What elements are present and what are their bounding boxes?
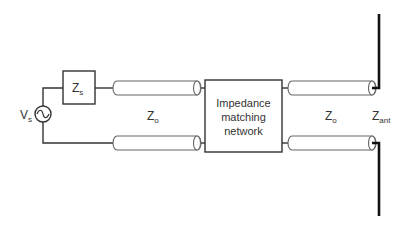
wire-source-bottom <box>43 122 113 143</box>
network-label-line2: matching <box>221 111 266 123</box>
coax-cable-icon <box>288 81 376 95</box>
coax-cable-icon <box>288 136 376 150</box>
coax-end-icon <box>194 81 201 95</box>
left-line-impedance-label: Zo <box>147 109 159 125</box>
right-line-impedance-label: Zo <box>325 109 337 125</box>
coax-end-icon <box>194 136 201 150</box>
coax-cable-icon <box>113 81 201 95</box>
coax-cable-icon <box>113 136 201 150</box>
antenna-impedance-label: Zant <box>372 109 391 125</box>
ac-source-icon <box>35 106 51 122</box>
source-label: Vs <box>20 108 32 124</box>
impedance-matching-diagram: Vs Zs Zo Impedance matching network Zo Z… <box>0 0 405 227</box>
network-label-line3: network <box>224 125 263 137</box>
wire-source-top <box>43 88 63 106</box>
network-label-line1: Impedance <box>216 97 270 109</box>
